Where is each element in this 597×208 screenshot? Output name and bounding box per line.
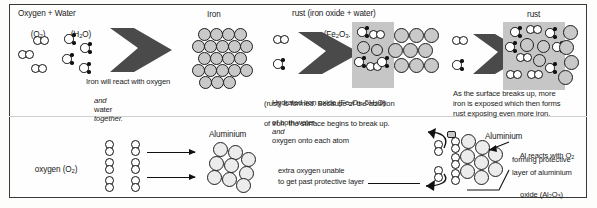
water-molecule [376, 56, 390, 69]
stage4-caption-line3: rust exposing even more iron. [453, 110, 550, 119]
stage1-heading-line1: Oxygen + Water [18, 9, 76, 19]
extra-oxygen-leader-line [368, 183, 420, 184]
water-molecule [79, 42, 93, 55]
al-caption-line4: oxide (Al2O3) [512, 182, 563, 208]
rust-caption-line3: of both water and oxygen onto each atom [264, 110, 349, 155]
h2o-end: O) [82, 30, 91, 39]
oxygen-to-aluminium-arrow-top [147, 152, 195, 153]
water-molecule [509, 26, 523, 39]
oxygen-to-aluminium-arrow-bottom [147, 177, 195, 178]
oxygen-label-end: ) [75, 165, 78, 174]
caption-together: together. [94, 114, 123, 123]
al-oxide-end: ) [560, 190, 562, 199]
reaction-arrow-1 [108, 26, 174, 74]
stage1-caption-line1: Iron will react with oxygen [86, 78, 170, 87]
al-oxide-pre: oxide (Al [520, 190, 549, 199]
rust-caption-line4: of iron, the surface begins to break up. [264, 120, 390, 129]
caption-water: water [94, 105, 112, 114]
diagram-canvas: Oxygen + Water (O2) (H2O) Iron will reac… [0, 0, 597, 208]
rust-caption-line2: (rust) is formed. Because of the additio… [264, 100, 395, 109]
al-caption-line2: forming protective [512, 156, 571, 165]
al-caption-sub: 2 [571, 154, 574, 160]
rust-caption3-c: oxygen onto each atom [272, 136, 349, 145]
stage4-caption-line2: iron is exposed which then forms [453, 100, 560, 109]
water-molecule [356, 26, 370, 39]
rust-heading-line1: rust (iron oxide + water) [292, 9, 376, 19]
aluminium-label: Aluminium [209, 130, 246, 140]
aluminium-callout-leaders [455, 136, 511, 194]
water-molecule [504, 41, 518, 54]
stage4-caption-line1: As the surface breaks up, more [453, 90, 556, 99]
iron-label: Iron [207, 10, 221, 20]
extra-oxygen-line2: to get past protective layer [278, 178, 364, 187]
caption-and: and [94, 96, 106, 105]
water-molecule [544, 27, 558, 40]
rust-stage4-label: rust [527, 10, 540, 20]
water-molecule [544, 62, 558, 75]
water-molecule [61, 53, 75, 66]
oxygen-label: oxygen (O2) [26, 155, 77, 185]
stage1-oxygen-formula: (O2) [22, 20, 45, 50]
water-molecule [451, 59, 465, 72]
al-caption-line3: layer of aluminium [512, 169, 572, 178]
water-molecule [353, 56, 367, 69]
stage1-caption-line2: and water together. [86, 88, 123, 133]
water-molecule [63, 33, 77, 46]
water-molecule [272, 58, 286, 71]
water-molecule [78, 62, 92, 75]
extra-oxygen-line1: extra oxygen unable [278, 167, 345, 176]
oxygen-label-pre: oxygen (O [35, 165, 72, 174]
